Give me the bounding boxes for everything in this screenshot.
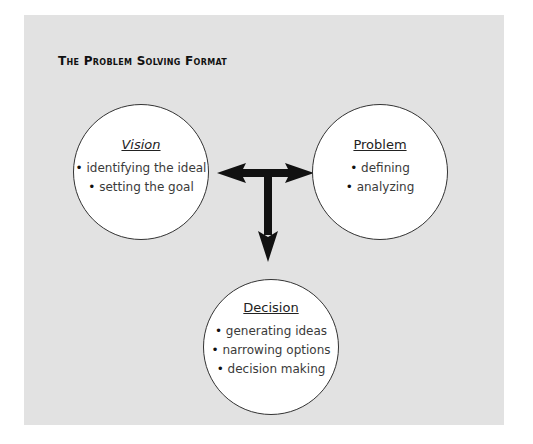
vertical-arrow-stem: [264, 173, 272, 235]
decision-heading: Decision: [243, 300, 298, 315]
vision-circle: Vision identifying the ideal setting the…: [73, 104, 209, 240]
vision-item: identifying the ideal: [76, 159, 207, 178]
decision-circle: Decision generating ideas narrowing opti…: [203, 279, 339, 415]
problem-item: analyzing: [346, 178, 415, 197]
decision-item: narrowing options: [212, 341, 331, 360]
problem-item: defining: [350, 159, 410, 178]
decision-item: generating ideas: [215, 322, 327, 341]
vision-item: setting the goal: [88, 178, 193, 197]
problem-circle: Problem defining analyzing: [312, 104, 448, 240]
decision-item: decision making: [217, 360, 326, 379]
vision-heading: Vision: [121, 137, 160, 152]
problem-heading: Problem: [353, 137, 406, 152]
arrow-down-head-icon: [258, 231, 278, 262]
